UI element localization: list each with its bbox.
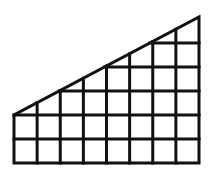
- grid-lines: [14, 29, 199, 163]
- grid-trapezoid-figure: [0, 0, 216, 174]
- trapezoid-grid-diagram: [0, 0, 216, 174]
